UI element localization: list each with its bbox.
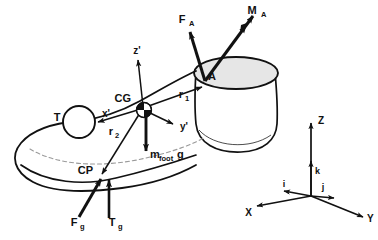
label-point-T: T [54, 111, 61, 123]
axis-Y [311, 196, 363, 217]
unit-vector-i [284, 191, 311, 196]
cg-marker [137, 103, 152, 118]
label-r1-base: r [179, 88, 184, 100]
toe-marker-circle [63, 106, 95, 138]
label-axis-x-prime: x' [102, 108, 110, 119]
label-axis-y-prime: y' [180, 121, 188, 132]
label-F-A-subscript: A [189, 19, 195, 28]
label-axis-X: X [245, 207, 252, 218]
label-unit-vector-i: i [283, 179, 286, 189]
label-axis-z-prime: z' [133, 45, 140, 56]
label-M-A-subscript: A [261, 10, 267, 19]
label-T-g-base: T [109, 216, 116, 228]
label-F-g-base: F [71, 216, 78, 228]
foot-outline [15, 71, 196, 191]
label-F-g-subscript: g [80, 222, 85, 231]
vector-r1 [143, 87, 202, 108]
ankle-joint-ellipse [194, 57, 278, 89]
free-body-diagram-figure: F A M A A CG CP T r 1 r 2 m foot g F [0, 0, 378, 240]
label-r1-subscript: 1 [185, 94, 189, 103]
label-unit-vector-k: k [315, 166, 321, 176]
label-T-g-subscript: g [118, 222, 123, 231]
label-r2-base: r [109, 125, 114, 137]
label-unit-vector-j: j [321, 182, 325, 192]
label-point-CG: CG [115, 92, 132, 104]
label-axis-Y: Y [367, 213, 374, 224]
label-axis-Z: Z [318, 115, 324, 126]
label-r2-subscript: 2 [115, 131, 119, 140]
vector-F-g [79, 179, 101, 217]
label-F-A-base: F [179, 13, 186, 25]
diagram-canvas: F A M A A CG CP T r 1 r 2 m foot g F [0, 0, 378, 240]
label-point-A: A [208, 70, 216, 82]
label-point-CP: CP [78, 164, 93, 176]
axis-X [257, 196, 311, 206]
axis-y-prime [148, 112, 173, 124]
axis-z-prime [138, 60, 143, 106]
label-mfoot-suffix: g [177, 148, 184, 160]
label-M-A-base: M [247, 4, 256, 16]
label-mfoot-subscript: foot [159, 154, 174, 163]
